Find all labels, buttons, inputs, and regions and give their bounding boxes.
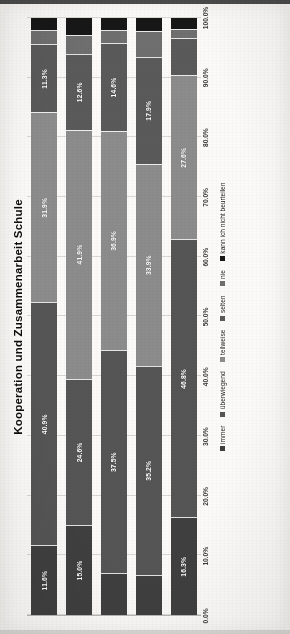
- bar-segment-value-label: 16.3%: [180, 557, 187, 577]
- legend-item[interactable]: kann ich nicht beurteilen: [219, 183, 226, 262]
- bar-segment: 14.6%: [101, 43, 127, 130]
- legend-label: selten: [219, 295, 226, 313]
- chart-stage: Kooperation und Zusammenarbeit Schule 11…: [4, 4, 286, 630]
- axis-tick-label: 80.0%: [202, 128, 209, 147]
- bar-segment: [136, 31, 162, 57]
- axis-tick-label: 70.0%: [202, 188, 209, 207]
- bar-segment: [136, 18, 162, 31]
- bar-segment-value-label: 37.5%: [110, 452, 117, 472]
- bar-segment: 41.9%: [66, 130, 92, 379]
- bar-segment-value-label: 11.6%: [41, 571, 48, 590]
- bar-row: 16.3%46.8%27.6%: [171, 18, 197, 615]
- bar-segment: [66, 35, 92, 54]
- bar-row: 11.6%40.9%31.9%11.3%: [31, 18, 57, 615]
- bar-segment: 35.2%: [136, 366, 162, 575]
- bar-segment-value-label: 27.6%: [180, 148, 187, 168]
- bar-segment: 24.6%: [66, 379, 92, 526]
- bar-segment-value-label: 24.6%: [76, 443, 83, 463]
- bar-segment: 16.3%: [171, 518, 197, 616]
- legend-swatch-icon: [220, 412, 225, 417]
- axis-tick-label: 0.0%: [202, 608, 209, 623]
- value-axis: 0.0%10.0%20.0%30.0%40.0%50.0%60.0%70.0%8…: [201, 18, 214, 616]
- axis-tick-label: 50.0%: [202, 308, 209, 327]
- axis-tick-label: 60.0%: [202, 248, 209, 267]
- bar-segment-value-label: 15.0%: [76, 561, 83, 581]
- axis-tick-label: 20.0%: [202, 487, 209, 506]
- bar-segment-value-label: 31.9%: [41, 198, 48, 218]
- bar-segment: 15.0%: [66, 525, 92, 615]
- bar-row: 37.5%36.9%14.6%: [101, 18, 127, 615]
- bar-segment: 12.6%: [66, 54, 92, 130]
- bar-segment: [171, 29, 197, 38]
- chart-legend: immerüberwiegendteilweiseseltenniekann i…: [219, 12, 226, 622]
- legend-item[interactable]: immer: [219, 426, 226, 452]
- bar-segment: [171, 18, 197, 29]
- bar-segment-value-label: 12.6%: [76, 82, 83, 102]
- stacked-bar-chart: Kooperation und Zusammenarbeit Schule 11…: [4, 4, 286, 630]
- legend-item[interactable]: selten: [219, 295, 226, 320]
- legend-item[interactable]: teilweise: [219, 330, 226, 363]
- legend-label: kann ich nicht beurteilen: [219, 183, 226, 254]
- legend-swatch-icon: [220, 281, 225, 286]
- bar-segment: 17.9%: [136, 57, 162, 164]
- bar-segment: [101, 18, 127, 30]
- legend-item[interactable]: nie: [219, 270, 226, 286]
- chart-title: Kooperation und Zusammenarbeit Schule: [12, 12, 24, 622]
- bar-segment: 46.8%: [171, 239, 197, 517]
- bar-segment-value-label: 35.2%: [145, 461, 152, 481]
- bar-segment: [31, 30, 57, 44]
- bar-segment-value-label: 46.8%: [180, 369, 187, 389]
- scanned-page: Kooperation und Zusammenarbeit Schule 11…: [0, 0, 290, 634]
- legend-label: teilweise: [219, 330, 226, 355]
- bar-segment: [171, 38, 197, 75]
- legend-item[interactable]: überwiegend: [219, 371, 226, 416]
- bar-segment: [101, 30, 127, 43]
- bar-segment: 33.9%: [136, 164, 162, 366]
- bar-segment-value-label: 40.9%: [41, 414, 48, 434]
- bar-segment: 36.9%: [101, 131, 127, 350]
- bar-group: 11.6%40.9%31.9%11.3%15.0%24.6%41.9%12.6%…: [27, 18, 201, 615]
- bar-segment-value-label: 14.6%: [110, 78, 117, 98]
- bar-segment: [66, 18, 92, 35]
- bar-segment: 27.6%: [171, 75, 197, 239]
- bar-row: 15.0%24.6%41.9%12.6%: [66, 18, 92, 615]
- axis-tick-label: 30.0%: [202, 427, 209, 446]
- bar-segment: 40.9%: [31, 302, 57, 545]
- legend-swatch-icon: [220, 357, 225, 362]
- bar-segment-value-label: 36.9%: [110, 231, 117, 251]
- legend-label: nie: [219, 270, 226, 279]
- scan-edge-bottom: [0, 630, 290, 634]
- bar-segment: 37.5%: [101, 350, 127, 573]
- bar-segment: [136, 575, 162, 615]
- bar-segment: 31.9%: [31, 112, 57, 302]
- bar-row: 35.2%33.9%17.9%: [136, 18, 162, 615]
- legend-swatch-icon: [220, 256, 225, 261]
- legend-label: immer: [219, 426, 226, 444]
- legend-swatch-icon: [220, 316, 225, 321]
- legend-label: überwiegend: [219, 371, 226, 409]
- axis-tick-label: 90.0%: [202, 68, 209, 87]
- legend-swatch-icon: [220, 446, 225, 451]
- bar-segment: 11.6%: [31, 545, 57, 615]
- bar-segment-value-label: 11.3%: [41, 69, 48, 88]
- bar-segment-value-label: 41.9%: [76, 245, 83, 265]
- axis-tick-label: 100.0%: [202, 7, 209, 29]
- axis-tick-label: 10.0%: [202, 547, 209, 566]
- bar-segment-value-label: 33.9%: [145, 255, 152, 275]
- plot-area: 11.6%40.9%31.9%11.3%15.0%24.6%41.9%12.6%…: [27, 18, 201, 616]
- bar-segment: [101, 573, 127, 615]
- bar-segment: [31, 18, 57, 30]
- bar-segment: 11.3%: [31, 44, 57, 112]
- axis-tick-label: 40.0%: [202, 367, 209, 386]
- bar-segment-value-label: 17.9%: [145, 101, 152, 121]
